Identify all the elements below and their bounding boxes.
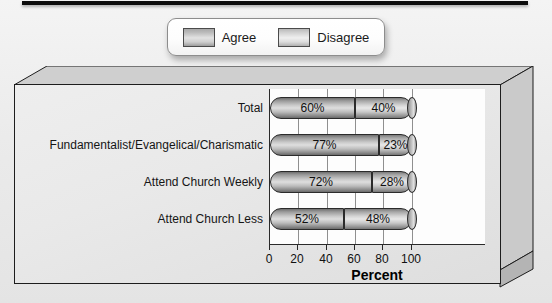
legend-entry-disagree: Disagree bbox=[278, 28, 369, 47]
bar-segment-agree[interactable]: 60% bbox=[270, 97, 355, 119]
bar-endcap bbox=[407, 97, 417, 119]
chart-legend: Agree Disagree bbox=[167, 18, 385, 56]
disagree-swatch-icon bbox=[278, 28, 310, 47]
bar-value-agree: 60% bbox=[300, 101, 324, 115]
bar-value-disagree: 48% bbox=[366, 212, 390, 226]
bar-segment-disagree[interactable]: 28% bbox=[372, 171, 412, 193]
bar-segment-agree[interactable]: 72% bbox=[270, 171, 372, 193]
legend-entry-agree: Agree bbox=[183, 28, 257, 47]
bar-value-disagree: 23% bbox=[383, 138, 407, 152]
x-tick-label-60: 60 bbox=[347, 252, 360, 266]
bar-endcap bbox=[407, 208, 417, 230]
chart-front-panel: 60% 40% 77% 23% bbox=[14, 84, 501, 284]
chart-screenshot: Agree Disagree bbox=[0, 0, 552, 303]
bar-segment-agree[interactable]: 77% bbox=[270, 134, 379, 156]
category-label-fundamentalist: Fundamentalist/Evangelical/Charismatic bbox=[50, 138, 263, 152]
bar-value-agree: 52% bbox=[295, 212, 319, 226]
agree-swatch-icon bbox=[183, 28, 215, 47]
bar-value-disagree: 28% bbox=[380, 175, 404, 189]
legend-label-disagree: Disagree bbox=[317, 30, 369, 45]
x-tick-100 bbox=[411, 245, 412, 250]
x-tick-20 bbox=[297, 245, 298, 250]
bar-value-agree: 77% bbox=[312, 138, 336, 152]
bar-segment-disagree[interactable]: 23% bbox=[379, 134, 412, 156]
category-label-total: Total bbox=[238, 101, 263, 115]
x-tick-0 bbox=[269, 245, 270, 250]
bar-segment-disagree[interactable]: 40% bbox=[355, 97, 412, 119]
bar-endcap bbox=[407, 171, 417, 193]
x-axis-title: Percent bbox=[269, 267, 485, 283]
x-tick-80 bbox=[382, 245, 383, 250]
top-black-rule bbox=[22, 1, 528, 5]
bar-segment-agree[interactable]: 52% bbox=[270, 208, 344, 230]
bar-value-disagree: 40% bbox=[371, 101, 395, 115]
x-tick-label-80: 80 bbox=[375, 252, 388, 266]
chart-container: 60% 40% 77% 23% bbox=[14, 66, 534, 288]
bar-endcap bbox=[407, 134, 417, 156]
x-tick-label-0: 0 bbox=[266, 252, 273, 266]
category-label-attend-less: Attend Church Less bbox=[158, 212, 263, 226]
bar-segment-disagree[interactable]: 48% bbox=[344, 208, 412, 230]
category-label-attend-weekly: Attend Church Weekly bbox=[144, 175, 263, 189]
legend-label-agree: Agree bbox=[222, 30, 257, 45]
bar-value-agree: 72% bbox=[309, 175, 333, 189]
x-tick-label-40: 40 bbox=[319, 252, 332, 266]
x-tick-60 bbox=[354, 245, 355, 250]
x-tick-label-100: 100 bbox=[401, 252, 421, 266]
x-tick-40 bbox=[326, 245, 327, 250]
category-axis-labels: Total Fundamentalist/Evangelical/Charism… bbox=[21, 89, 267, 245]
plot-area: 60% 40% 77% 23% bbox=[269, 89, 485, 245]
x-tick-label-20: 20 bbox=[290, 252, 303, 266]
